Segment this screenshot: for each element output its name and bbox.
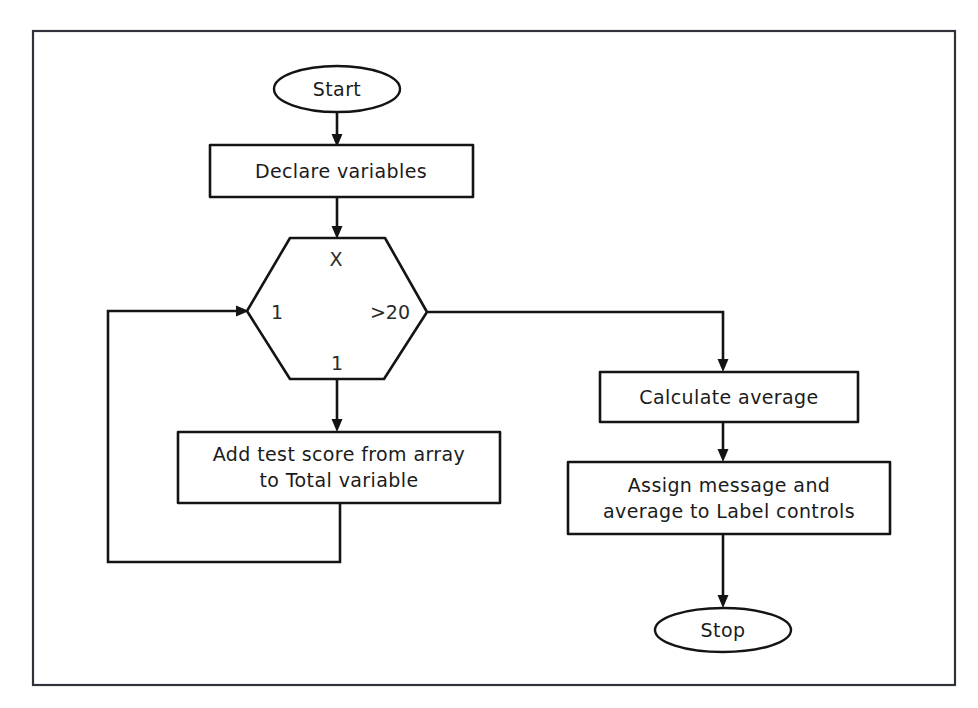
arrowhead-icon [718, 449, 729, 462]
loop-left-label: 1 [271, 301, 283, 323]
assign-message-label-line1: Assign message and [628, 474, 831, 496]
arrowhead-icon [718, 595, 729, 608]
arrowhead-icon [718, 359, 729, 372]
flowchart-canvas: Start Declare variables X 1 >20 1 Add te… [0, 0, 978, 708]
node-declare-variables[interactable]: Declare variables [210, 145, 473, 197]
connector-loop-exit-to-calc-avg [428, 312, 729, 372]
start-label: Start [313, 78, 361, 100]
assign-message-label-line2: average to Label controls [603, 500, 855, 522]
stop-label: Stop [701, 619, 746, 641]
node-calculate-average[interactable]: Calculate average [600, 372, 858, 422]
add-test-score-label-line1: Add test score from array [213, 443, 466, 465]
connector-loop-to-add-score [332, 380, 343, 432]
page-frame [33, 31, 955, 685]
connector-start-to-declare [332, 112, 343, 147]
node-assign-message[interactable]: Assign message and average to Label cont… [568, 462, 890, 534]
flowchart-svg: Start Declare variables X 1 >20 1 Add te… [0, 0, 978, 708]
node-loop-hexagon[interactable]: X 1 >20 1 [247, 238, 427, 379]
loop-right-label: >20 [370, 301, 410, 323]
add-test-score-label-line2: to Total variable [260, 469, 419, 491]
calculate-average-label: Calculate average [639, 386, 818, 408]
loop-bottom-label: 1 [331, 352, 343, 374]
node-add-test-score[interactable]: Add test score from array to Total varia… [178, 432, 500, 503]
node-stop[interactable]: Stop [655, 608, 791, 652]
connector-declare-to-loop [332, 197, 343, 239]
loop-top-label: X [329, 248, 342, 270]
arrowhead-icon [332, 419, 343, 432]
connector-calc-avg-to-assign [718, 422, 729, 462]
connector-assign-to-stop [718, 534, 729, 608]
node-start[interactable]: Start [274, 66, 400, 112]
declare-variables-label: Declare variables [255, 160, 427, 182]
